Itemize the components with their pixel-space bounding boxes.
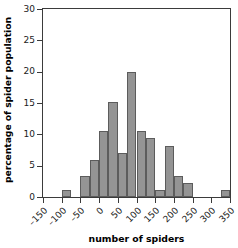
x-axis-tick — [155, 198, 156, 203]
x-axis-tick — [43, 198, 44, 203]
histogram-bar — [221, 190, 230, 197]
x-axis-tick — [230, 198, 231, 203]
y-axis-tick-label: 30 — [5, 5, 35, 14]
x-axis-tick — [211, 198, 212, 203]
x-axis-tick — [137, 198, 138, 203]
y-axis-tick-label: 0 — [5, 193, 35, 202]
histogram-bar — [127, 72, 136, 197]
histogram-bar — [80, 176, 89, 197]
y-axis-tick — [37, 9, 42, 10]
x-axis-tick — [174, 198, 175, 203]
histogram-bar — [174, 176, 183, 197]
y-axis-tick-label: 25 — [5, 36, 35, 45]
bars-layer — [43, 9, 230, 197]
x-axis-tick — [193, 198, 194, 203]
x-axis-tick — [118, 198, 119, 203]
histogram-bar — [108, 102, 117, 197]
y-axis-tick — [37, 40, 42, 41]
y-axis-tick-label: 5 — [5, 161, 35, 170]
y-axis-tick — [37, 166, 42, 167]
histogram-bar — [99, 131, 108, 197]
histogram-bar — [62, 190, 71, 197]
y-axis-tick — [37, 197, 42, 198]
histogram-bar — [165, 146, 174, 197]
x-axis-title: number of spiders — [42, 233, 231, 244]
y-axis-tick-label: 20 — [5, 67, 35, 76]
y-axis-tick-label: 15 — [5, 99, 35, 108]
x-axis-tick — [99, 198, 100, 203]
y-axis-tick — [37, 72, 42, 73]
x-axis-tick — [80, 198, 81, 203]
histogram-bar — [90, 160, 99, 197]
y-axis-tick-label: 10 — [5, 130, 35, 139]
y-axis-tick — [37, 103, 42, 104]
y-axis-tick — [37, 134, 42, 135]
histogram-bar — [118, 153, 127, 197]
histogram-bar — [183, 183, 192, 197]
histogram-bar — [155, 190, 164, 197]
x-axis-tick — [62, 198, 63, 203]
histogram-bar — [146, 138, 155, 197]
histogram-bar — [137, 131, 146, 197]
